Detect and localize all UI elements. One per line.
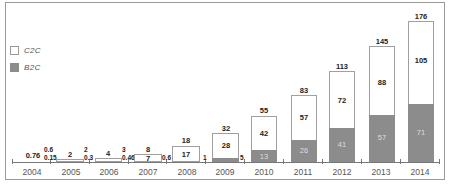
x-label-2004: 2004 — [12, 167, 52, 177]
total-label-2013: 145 — [367, 37, 397, 46]
value-label: 4 — [93, 149, 123, 158]
total-label-2008: 18 — [171, 136, 201, 145]
value-label: 7 — [133, 154, 163, 163]
value-label: 3 — [122, 146, 126, 153]
x-label-2009: 2009 — [205, 167, 245, 177]
x-tick — [439, 159, 440, 164]
value-label: 17 — [171, 150, 201, 159]
legend-item-c2c: C2C — [10, 43, 41, 57]
value-label: 0.6 — [162, 154, 171, 161]
x-label-2008: 2008 — [167, 167, 207, 177]
bar-c2c-2006 — [95, 158, 122, 162]
x-axis — [12, 162, 440, 163]
legend-label-b2c: B2C — [24, 63, 40, 72]
value-label: 26 — [289, 146, 319, 155]
legend-label-c2c: C2C — [24, 46, 41, 55]
value-label: 0.3 — [84, 154, 93, 161]
x-label-2005: 2005 — [51, 167, 91, 177]
x-tick — [244, 159, 245, 164]
value-label: 1 — [203, 154, 207, 161]
x-label-2013: 2013 — [361, 167, 401, 177]
bar-b2c-2009 — [212, 158, 239, 162]
x-label-2012: 2012 — [322, 167, 362, 177]
value-label: 41 — [327, 140, 357, 149]
legend: C2C B2C — [10, 43, 41, 77]
c2c-swatch-icon — [10, 46, 19, 55]
value-label: 2 — [84, 146, 88, 153]
total-label-2012: 113 — [327, 62, 357, 71]
value-label: 88 — [367, 78, 397, 87]
value-label: 72 — [327, 96, 357, 105]
x-tick — [322, 159, 323, 164]
x-label-2011: 2011 — [283, 167, 323, 177]
total-label-2011: 83 — [289, 86, 319, 95]
total-label-2007: 8 — [133, 145, 163, 154]
total-label-2014: 176 — [406, 12, 436, 21]
total-label-2009: 32 — [211, 124, 241, 133]
value-label: 71 — [406, 128, 436, 137]
value-label: 105 — [406, 56, 436, 65]
bar-c2c-2005 — [56, 159, 84, 162]
value-label: 57 — [289, 113, 319, 122]
x-tick — [283, 159, 284, 164]
value-label: 57 — [367, 133, 397, 142]
value-label: 13 — [249, 152, 279, 161]
total-label-2010: 55 — [249, 106, 279, 115]
x-label-2007: 2007 — [128, 167, 168, 177]
x-tick — [400, 159, 401, 164]
b2c-swatch-icon — [10, 63, 19, 72]
x-label-2014: 2014 — [400, 167, 440, 177]
value-label: 0.6 — [44, 146, 53, 153]
x-tick — [361, 159, 362, 164]
legend-item-b2c: B2C — [10, 60, 41, 74]
x-label-2006: 2006 — [89, 167, 129, 177]
x-tick — [12, 159, 13, 164]
x-label-2010: 2010 — [244, 167, 284, 177]
value-label: 42 — [249, 129, 279, 138]
value-label: 28 — [211, 141, 241, 150]
value-label: 2 — [55, 150, 85, 159]
value-label: 5 — [240, 154, 244, 161]
